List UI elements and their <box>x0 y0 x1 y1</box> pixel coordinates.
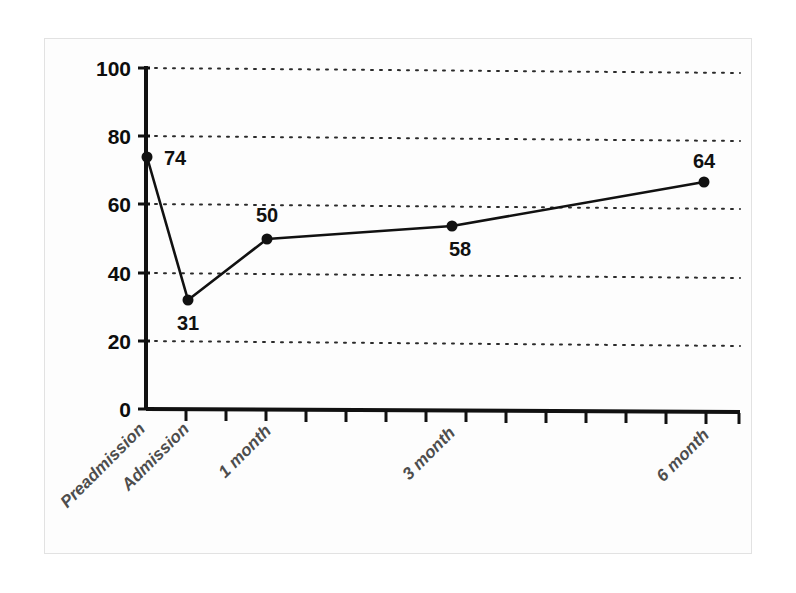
gridline-100 <box>146 68 740 73</box>
gridline-20 <box>146 341 740 346</box>
data-point-marker[interactable] <box>183 295 194 306</box>
data-label-6-month: 64 <box>693 150 716 172</box>
data-series <box>147 157 704 300</box>
x-axis-line <box>146 409 740 412</box>
data-label-preadmission: 74 <box>164 147 187 169</box>
gridline-60 <box>146 204 740 209</box>
y-tick-label-40: 40 <box>108 262 131 285</box>
data-point-marker[interactable] <box>447 221 458 232</box>
data-point-marker[interactable] <box>142 152 153 163</box>
x-category-label-3-month: 3 month <box>399 423 459 483</box>
y-tick-label-100: 100 <box>96 57 131 80</box>
y-tick-label-0: 0 <box>119 398 131 421</box>
data-label-1-month: 50 <box>256 204 278 226</box>
gridline-80 <box>146 136 740 141</box>
y-axis-tick-labels: 100 80 60 40 20 0 <box>96 57 131 421</box>
x-axis-category-labels: Preadmission Admission 1 month 3 month 6… <box>57 419 713 511</box>
gridline-40 <box>146 273 740 278</box>
y-axis <box>138 66 150 410</box>
y-tick-label-80: 80 <box>108 125 131 148</box>
x-category-label-6-month: 6 month <box>653 425 713 485</box>
x-category-label-1-month: 1 month <box>215 421 275 481</box>
y-tick-label-60: 60 <box>108 193 131 216</box>
line-chart: 100 80 60 40 20 0 <box>0 0 796 593</box>
data-label-3-month: 58 <box>449 238 471 260</box>
data-point-marker[interactable] <box>699 177 710 188</box>
data-point-marker[interactable] <box>262 234 273 245</box>
figure-container: 100 80 60 40 20 0 <box>0 0 796 593</box>
gridlines <box>146 68 740 346</box>
data-label-admission: 31 <box>177 312 199 334</box>
x-axis <box>146 409 740 424</box>
y-tick-label-20: 20 <box>108 330 131 353</box>
data-point-labels: 74 31 50 58 64 <box>164 147 716 334</box>
series-line <box>147 157 704 300</box>
